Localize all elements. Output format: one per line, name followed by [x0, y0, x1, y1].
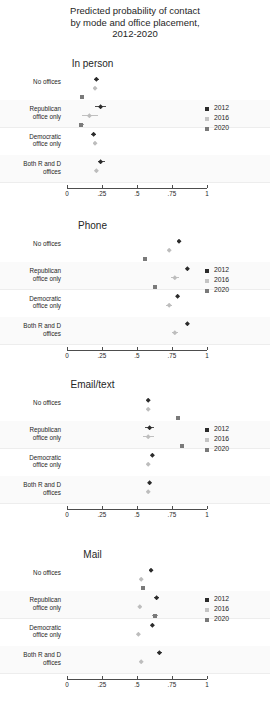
x-tick-label: .25 — [93, 681, 111, 688]
legend-label: 2020 — [214, 124, 229, 131]
plot-area: No officesRepublicanoffice onlyDemocrati… — [0, 393, 270, 503]
row-divider — [0, 503, 270, 504]
category-label: Democraticoffice only — [1, 133, 61, 148]
row-divider — [0, 448, 270, 449]
plot-area: No officesRepublicanoffice onlyDemocrati… — [0, 234, 270, 344]
legend-swatch-2020 — [205, 289, 209, 293]
row-divider — [0, 673, 270, 674]
data-point-2016 — [93, 141, 98, 146]
x-tick-label: .75 — [163, 190, 181, 197]
category-label: No offices — [1, 399, 61, 406]
category-label: Both R and Doffices — [1, 651, 61, 666]
x-tick-label: .5 — [128, 352, 146, 359]
category-label: Democraticoffice only — [1, 624, 61, 639]
x-tick — [137, 347, 138, 350]
data-point-2012 — [175, 294, 180, 299]
x-tick — [67, 506, 68, 509]
x-tick — [172, 676, 173, 679]
plot-area: No officesRepublicanoffice onlyDemocrati… — [0, 563, 270, 673]
legend-label: 2016 — [214, 435, 229, 442]
legend-swatch-2016 — [205, 279, 209, 283]
x-tick — [207, 506, 208, 509]
x-tick — [172, 347, 173, 350]
data-point-2016 — [146, 462, 151, 467]
data-point-2020 — [79, 123, 83, 127]
x-tick-label: 0 — [58, 352, 76, 359]
data-point-2016 — [139, 577, 144, 582]
x-tick-label: .25 — [93, 511, 111, 518]
x-tick — [102, 185, 103, 188]
category-label: Both R and Doffices — [1, 481, 61, 496]
x-tick — [67, 676, 68, 679]
legend-swatch-2016 — [205, 438, 209, 442]
x-tick-label: 1 — [198, 511, 216, 518]
x-tick — [207, 347, 208, 350]
data-point-2012 — [91, 132, 96, 137]
x-axis — [67, 188, 207, 189]
category-label: Democraticoffice only — [1, 454, 61, 469]
x-tick — [172, 185, 173, 188]
data-point-2020 — [153, 614, 157, 618]
x-axis — [67, 350, 207, 351]
data-point-2020 — [153, 285, 157, 289]
row-divider — [0, 182, 270, 183]
data-point-2012 — [150, 453, 155, 458]
data-point-2012 — [94, 77, 99, 82]
legend-swatch-2020 — [205, 448, 209, 452]
data-point-2016 — [146, 407, 151, 412]
category-label: Both R and Doffices — [1, 160, 61, 175]
legend-swatch-2020 — [205, 127, 209, 131]
panel-title: In person — [0, 58, 185, 69]
x-tick-label: .5 — [128, 681, 146, 688]
legend-swatch-2016 — [205, 608, 209, 612]
data-point-2012 — [177, 239, 182, 244]
data-point-2016 — [93, 86, 98, 91]
panel-title: Email/text — [0, 379, 185, 390]
panel-title: Phone — [0, 220, 185, 231]
x-tick-label: 0 — [58, 511, 76, 518]
data-point-2020 — [180, 444, 184, 448]
title-line-1: Predicted probability of contact — [0, 5, 270, 17]
legend-swatch-2012 — [205, 107, 209, 111]
x-tick-label: 1 — [198, 190, 216, 197]
row-divider — [0, 344, 270, 345]
data-point-2012 — [149, 568, 154, 573]
data-point-2012 — [146, 398, 151, 403]
x-tick-label: .5 — [128, 190, 146, 197]
legend-label: 2020 — [214, 445, 229, 452]
data-point-2016 — [167, 303, 172, 308]
panel-phone: PhoneNo officesRepublicanoffice onlyDemo… — [0, 208, 270, 363]
x-tick-label: .25 — [93, 190, 111, 197]
category-label: No offices — [1, 240, 61, 247]
legend-label: 2020 — [214, 286, 229, 293]
x-tick-label: 1 — [198, 681, 216, 688]
x-tick-label: .5 — [128, 511, 146, 518]
x-tick — [207, 676, 208, 679]
category-label: Republicanoffice only — [1, 596, 61, 611]
legend-label: 2016 — [214, 605, 229, 612]
legend-swatch-2012 — [205, 598, 209, 602]
plot-area: No officesRepublicanoffice onlyDemocrati… — [0, 72, 270, 182]
x-tick-label: .75 — [163, 681, 181, 688]
legend-label: 2012 — [214, 425, 229, 432]
panel-in-person: In personNo officesRepublicanoffice only… — [0, 52, 270, 208]
panel-email-text: Email/textNo officesRepublicanoffice onl… — [0, 363, 270, 519]
category-label: Democraticoffice only — [1, 295, 61, 310]
row-divider — [0, 289, 270, 290]
x-tick — [67, 185, 68, 188]
x-tick — [102, 676, 103, 679]
x-axis — [67, 509, 207, 510]
row-divider — [0, 127, 270, 128]
x-tick-label: .75 — [163, 352, 181, 359]
x-tick-label: 0 — [58, 190, 76, 197]
legend-label: 2012 — [214, 104, 229, 111]
x-tick-label: 0 — [58, 681, 76, 688]
x-tick — [102, 506, 103, 509]
legend-label: 2012 — [214, 595, 229, 602]
legend-swatch-2016 — [205, 117, 209, 121]
x-tick-label: 1 — [198, 352, 216, 359]
x-tick — [137, 506, 138, 509]
x-axis — [67, 679, 207, 680]
legend-swatch-2012 — [205, 428, 209, 432]
x-tick — [67, 347, 68, 350]
